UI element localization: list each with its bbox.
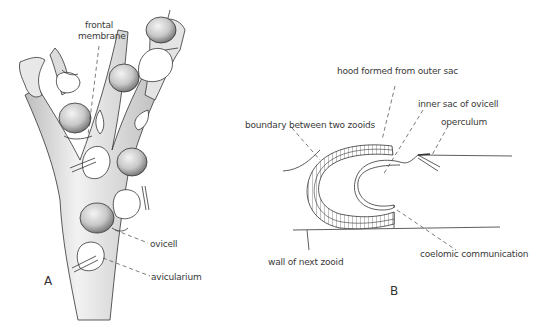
label-operculum: operculum [441, 117, 487, 127]
label-inner-sac: inner sac of ovicell [418, 99, 498, 109]
label-wall: wall of next zooid [268, 257, 343, 267]
label-boundary: boundary between two zooids [245, 120, 375, 130]
panel-a-illustration [0, 0, 260, 323]
label-avicularium: avicularium [151, 272, 201, 282]
label-coelomic: coelomic communication [420, 249, 528, 259]
label-ovicell: ovicell [150, 239, 177, 249]
panel-b-leader-lines [292, 86, 456, 250]
panel-a-letter: A [44, 274, 52, 288]
panel-b-letter: B [390, 284, 398, 298]
label-frontal: frontal [85, 20, 113, 30]
label-hood: hood formed from outer sac [337, 66, 458, 76]
figure: frontal membrane ovicell avicularium A [0, 0, 544, 323]
outer-hood-band [307, 145, 394, 229]
label-membrane: membrane [78, 31, 126, 41]
